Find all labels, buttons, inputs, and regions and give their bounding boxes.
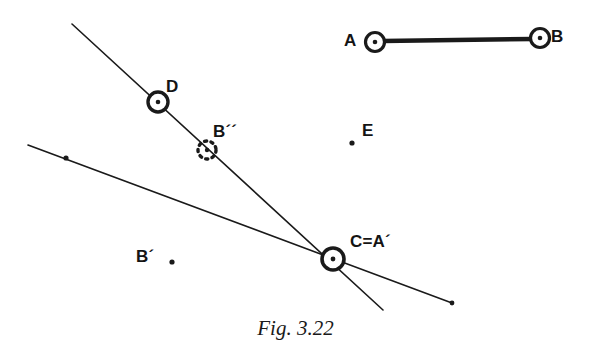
label-a: A bbox=[344, 32, 356, 49]
label-b-prime: B´ bbox=[136, 248, 154, 265]
shallow-line-tick-dot bbox=[63, 155, 68, 160]
point-center-dot-a bbox=[373, 40, 378, 45]
label-c-equals-a-prime: C=A´ bbox=[350, 233, 391, 250]
point-marker-e bbox=[349, 140, 354, 145]
shallow-line bbox=[28, 145, 452, 303]
label-b-double-prime: B´´ bbox=[213, 123, 237, 140]
shallow-line-end-dot bbox=[450, 301, 455, 306]
point-center-dot-b-double-prime bbox=[205, 148, 209, 152]
point-center-dot-b bbox=[538, 36, 543, 41]
figure-container: A B D B´´ B´ E C=A´ Fig. 3.22 bbox=[0, 0, 591, 359]
label-b: B bbox=[551, 28, 563, 45]
point-center-dot-d bbox=[156, 100, 161, 105]
geometry-drawing bbox=[0, 0, 591, 359]
label-e: E bbox=[362, 122, 374, 139]
segment-ab bbox=[383, 39, 532, 41]
label-d: D bbox=[166, 78, 178, 95]
point-center-dot-c-equals-a-prime bbox=[331, 257, 336, 262]
point-marker-b-prime bbox=[169, 259, 174, 264]
figure-caption: Fig. 3.22 bbox=[0, 318, 591, 339]
